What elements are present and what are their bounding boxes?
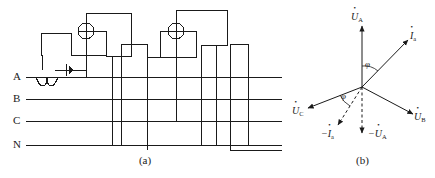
bus-label-c: C (13, 115, 20, 126)
meter1-right-wire (86, 31, 106, 55)
meter2-top-wire (176, 10, 227, 23)
middle-box-wire (112, 56, 121, 145)
meter1-left-wire (71, 33, 86, 55)
meter2-left-wire (147, 31, 168, 57)
label-neg-i-a-prefix: − (321, 128, 328, 139)
label-neg-u-a-prefix: − (368, 128, 375, 139)
label-u-a: UA (351, 12, 363, 22)
caption-b: (b) (290, 154, 435, 166)
label-phi-lower: φ (341, 92, 346, 101)
wire-right-box-left (139, 45, 201, 145)
wire-far-right-left (230, 44, 282, 150)
bus-label-n: N (13, 139, 21, 150)
circuit-schematic (0, 0, 290, 155)
label-neg-i-a: −Ia (321, 129, 334, 139)
label-u-c-sub: C (299, 110, 303, 117)
label-neg-u-a: −UA (368, 129, 387, 139)
meter-element-1 (78, 23, 94, 39)
meter1-top-wire (86, 13, 131, 23)
wire-left-riser (41, 55, 42, 70)
coil-symbol (36, 77, 58, 86)
vector-u-c (308, 87, 362, 108)
label-neg-u-a-symbol: U (375, 129, 382, 139)
meter2-right-wire (160, 31, 196, 57)
caption-a: (a) (0, 154, 290, 166)
bus-label-b: B (13, 93, 20, 104)
label-u-c: UC (292, 106, 304, 116)
bus-label-a: A (13, 71, 21, 82)
label-u-a-sub: A (358, 16, 363, 23)
label-i-a: Ia (410, 31, 416, 41)
phasor-diagram-panel: UA Ia UB UC −Ia −UA φ φ (290, 0, 435, 178)
label-neg-u-a-sub: A (382, 133, 387, 140)
figure-root: A B C N (0, 0, 435, 178)
label-neg-i-a-sub: a (331, 133, 334, 140)
wire-left-top-run (41, 33, 71, 55)
label-u-b: UB (414, 112, 426, 122)
label-u-b-sub: B (421, 116, 425, 123)
circuit-diagram-panel: A B C N (0, 0, 290, 178)
wire-right-drop-1 (201, 10, 227, 45)
vector-u-b (362, 87, 413, 114)
phasor-diagram (290, 0, 435, 155)
meter-element-2 (168, 23, 184, 39)
label-phi-upper: φ (365, 60, 370, 69)
wire-top-bar-drop (106, 13, 131, 56)
label-i-a-sub: a (413, 35, 416, 42)
middle-box-wire-2 (121, 44, 147, 145)
